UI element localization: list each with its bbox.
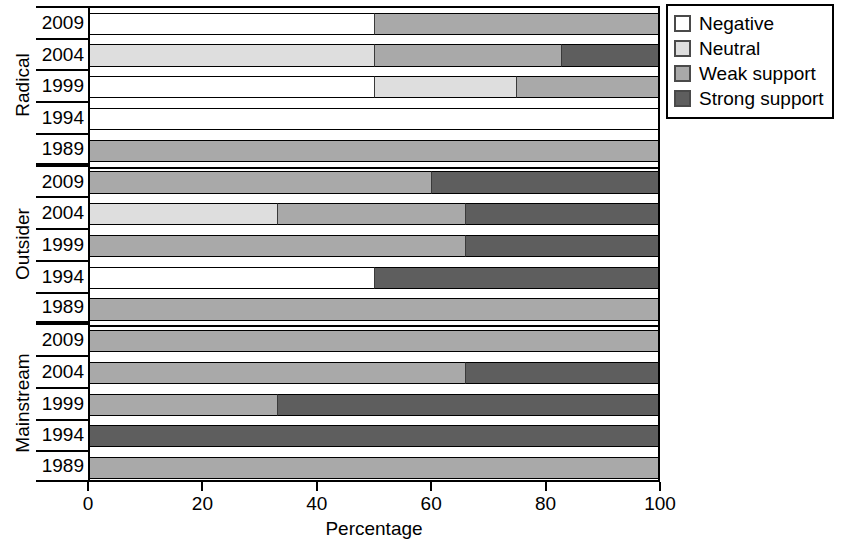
bar-segment-weak-support [90, 394, 277, 416]
bar-outsider-1999 [90, 235, 658, 257]
legend-swatch-neutral [674, 40, 691, 57]
bar-segment-negative [90, 76, 374, 98]
bar-segment-weak-support [277, 203, 464, 225]
bar-segment-weak-support [90, 457, 658, 479]
category-tick-radical-1989: 1989 [36, 133, 88, 165]
category-tick-outsider-1999: 1999 [36, 228, 88, 260]
category-tick-radical-2004: 2004 [36, 38, 88, 70]
plot-panel [88, 6, 660, 482]
x-tick-label: 40 [306, 493, 327, 515]
x-tick [430, 482, 432, 491]
category-tick-mainstream-1994: 1994 [36, 419, 88, 451]
bar-radical-2009 [90, 13, 658, 35]
bar-segment-weak-support [374, 44, 561, 66]
bar-segment-weak-support [90, 330, 658, 352]
bar-segment-weak-support [90, 298, 658, 320]
group-axis: RadicalOutsiderMainstream [8, 6, 38, 482]
bar-segment-strong-support [561, 44, 658, 66]
bar-outsider-1994 [90, 267, 658, 289]
bar-outsider-1989 [90, 298, 658, 320]
legend-label-neutral: Neutral [699, 38, 760, 60]
bar-mainstream-2004 [90, 362, 658, 384]
bar-radical-2004 [90, 44, 658, 66]
bar-segment-negative [90, 267, 374, 289]
group-label-text: Radical [12, 54, 34, 117]
category-tick-mainstream-1989: 1989 [36, 450, 88, 482]
legend-swatch-weak-support [674, 65, 691, 82]
category-tick-radical-1994: 1994 [36, 101, 88, 133]
bar-mainstream-1999 [90, 394, 658, 416]
legend-item-weak-support[interactable]: Weak support [674, 61, 824, 86]
legend-swatch-strong-support [674, 90, 691, 107]
x-tick [659, 482, 661, 491]
bar-mainstream-2009 [90, 330, 658, 352]
category-tick-mainstream-2009: 2009 [36, 323, 88, 355]
group-divider [90, 325, 658, 327]
group-label-mainstream: Mainstream [8, 323, 38, 482]
bar-segment-weak-support [90, 235, 465, 257]
bar-segment-strong-support [465, 235, 658, 257]
stacked-bar-chart: RadicalOutsiderMainstream 20092004199919… [0, 0, 844, 550]
legend: NegativeNeutralWeak supportStrong suppor… [666, 4, 834, 119]
bar-outsider-2004 [90, 203, 658, 225]
x-tick-label: 60 [421, 493, 442, 515]
legend-label-strong-support: Strong support [699, 88, 824, 110]
bar-mainstream-1994 [90, 425, 658, 447]
category-tick-mainstream-1999: 1999 [36, 387, 88, 419]
plot-area [90, 8, 658, 480]
category-tick-outsider-2009: 2009 [36, 165, 88, 197]
category-tick-radical-2009: 2009 [36, 6, 88, 38]
bar-segment-neutral [374, 76, 516, 98]
bar-segment-strong-support [465, 203, 658, 225]
bar-segment-weak-support [90, 171, 431, 193]
x-tick-label: 80 [535, 493, 556, 515]
bar-segment-strong-support [431, 171, 658, 193]
x-tick [545, 482, 547, 491]
bar-segment-neutral [90, 44, 374, 66]
category-tick-outsider-1989: 1989 [36, 292, 88, 324]
bar-segment-strong-support [90, 425, 658, 447]
legend-label-weak-support: Weak support [699, 63, 816, 85]
bar-segment-weak-support [90, 362, 465, 384]
bar-segment-strong-support [374, 267, 658, 289]
bar-segment-negative [90, 13, 374, 35]
bar-segment-negative [90, 108, 658, 130]
x-axis: 020406080100 [88, 482, 660, 483]
legend-item-neutral[interactable]: Neutral [674, 36, 824, 61]
group-label-text: Outsider [12, 208, 34, 280]
category-tick-outsider-1994: 1994 [36, 260, 88, 292]
bar-segment-neutral [90, 203, 277, 225]
category-tick-radical-1999: 1999 [36, 69, 88, 101]
bar-segment-weak-support [516, 76, 658, 98]
bar-segment-strong-support [277, 394, 658, 416]
x-axis-title: Percentage [88, 518, 660, 540]
x-tick-label: 0 [83, 493, 94, 515]
group-label-outsider: Outsider [8, 165, 38, 324]
legend-item-strong-support[interactable]: Strong support [674, 86, 824, 111]
bar-radical-1994 [90, 108, 658, 130]
bar-segment-weak-support [90, 140, 658, 162]
x-tick [201, 482, 203, 491]
bar-radical-1999 [90, 76, 658, 98]
bar-outsider-2009 [90, 171, 658, 193]
category-axis: 2009200419991994198920092004199919941989… [36, 6, 90, 482]
x-tick [87, 482, 89, 491]
group-divider [90, 167, 658, 169]
bar-radical-1989 [90, 140, 658, 162]
group-label-radical: Radical [8, 6, 38, 165]
group-label-text: Mainstream [12, 353, 34, 452]
x-tick-label: 20 [192, 493, 213, 515]
bar-mainstream-1989 [90, 457, 658, 479]
x-tick [316, 482, 318, 491]
category-tick-mainstream-2004: 2004 [36, 355, 88, 387]
bar-segment-strong-support [465, 362, 658, 384]
legend-swatch-negative [674, 15, 691, 32]
x-tick-label: 100 [644, 493, 676, 515]
bar-segment-weak-support [374, 13, 658, 35]
category-tick-outsider-2004: 2004 [36, 196, 88, 228]
legend-label-negative: Negative [699, 13, 774, 35]
legend-item-negative[interactable]: Negative [674, 11, 824, 36]
